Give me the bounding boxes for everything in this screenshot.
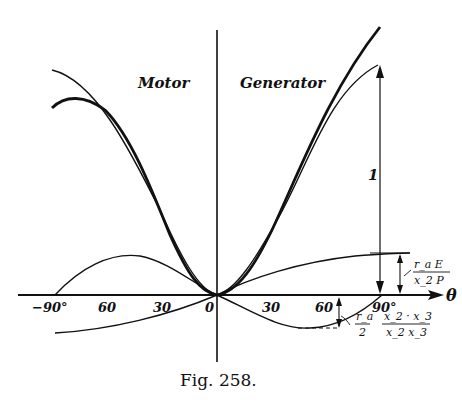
tick-minus-90: −90° [32,300,67,315]
unit-arrow-down-icon [376,281,384,294]
upper-dim-arrow-down-icon [397,285,403,294]
upper-dim-arrow-up-icon [397,254,403,263]
figure-canvas: 1 Motor Generator −90° 60 30 0 30 60 90°… [0,0,462,413]
tick-minus-30: 30 [153,300,171,315]
lower-formula-prefix-num: r_a [356,310,373,323]
unit-arrow-up-icon [376,65,384,78]
theta-label: θ [446,286,457,305]
lower-formula-prefix-den: 2 [358,326,366,339]
figure-caption: Fig. 258. [180,370,257,390]
upper-formula-numerator: r_a E [414,258,443,271]
lower-formula-numerator: x_2 · x_3 [384,310,432,323]
lower-formula-denominator: x_2 x_3 [386,326,427,339]
tick-60: 60 [315,300,333,315]
lower-dim-arrow-up-icon [336,297,342,306]
generator-label: Generator [240,74,326,92]
tick-30: 30 [262,300,280,315]
resultant-curve [52,27,380,295]
unit-arrow-label: 1 [368,166,378,184]
lower-component-left [55,295,217,333]
motor-label: Motor [137,74,191,92]
upper-formula-denominator: x_2 P [414,274,444,287]
tick-minus-60: 60 [98,300,116,315]
upper-leader-line [404,270,411,276]
main-curve [52,65,378,295]
tick-0: 0 [205,300,214,315]
